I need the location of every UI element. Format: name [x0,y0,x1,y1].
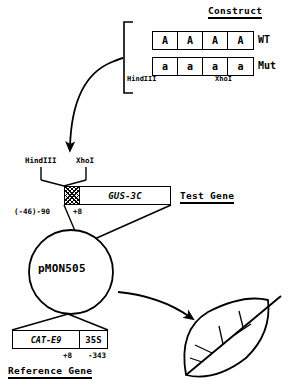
test-gene-promoter-hatch-icon [65,187,80,204]
test-gene-position-left: (-46)-90 [14,208,50,216]
construct-hindiii-label: HindIII [127,76,157,83]
construct-wt-cell: A [178,32,203,49]
plasmid-to-leaf-arrow [118,292,190,317]
construct-row-wt: A A A A [152,31,254,50]
construct-wt-label: WT [258,35,270,45]
reference-gene-position-right: -343 [88,352,106,360]
construct-mut-cell: a [228,58,253,75]
test-gene-connector-right [81,205,171,245]
construct-to-test-gene-arrow [70,58,123,147]
reference-gene-heading: Reference Gene [8,366,92,379]
test-gene-box: GUS-3C [64,186,171,205]
construct-wt-cell: A [228,32,253,49]
test-gene-xhoi-label: XhoI [76,157,94,165]
construct-mut-cell: a [153,58,178,75]
reference-gene-connector-right [68,314,108,330]
reference-gene-position-left: +8 [63,352,72,360]
construct-mut-label: Mut [258,61,276,71]
construct-row-mut: a a a a [152,57,254,76]
figure-canvas: Construct A A A A WT a a a a Mut HindIII… [0,0,289,389]
test-gene-heading: Test Gene [180,191,234,204]
construct-xhoi-label: XhoI [215,76,232,83]
leaf-illustration [184,296,281,377]
construct-heading: Construct [208,6,262,19]
reference-gene-promoter-label: 35S [80,331,107,348]
reference-gene-connector-left [12,314,68,330]
construct-mut-cell: a [203,58,228,75]
construct-wt-cell: A [203,32,228,49]
construct-wt-cell: A [153,32,178,49]
reference-gene-label: CAT-E9 [13,331,80,348]
construct-mut-cell: a [178,58,203,75]
plasmid-name-label: pMON505 [38,263,86,274]
test-gene-position-right: +8 [73,208,82,216]
test-gene-label: GUS-3C [80,187,170,204]
test-gene-hindiii-label: HindIII [25,157,57,165]
reference-gene-box: CAT-E9 35S [12,330,108,349]
